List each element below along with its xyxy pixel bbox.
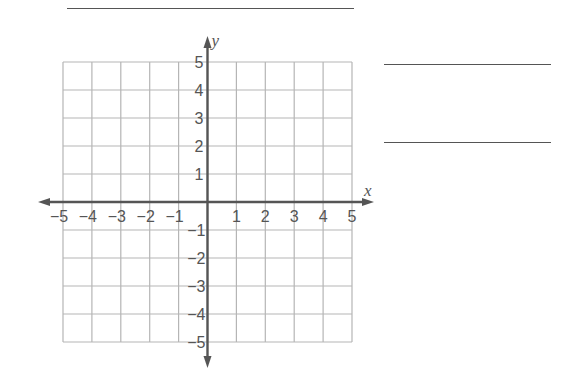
y-tick-label: 4 bbox=[195, 82, 204, 99]
y-tick-label: −2 bbox=[187, 250, 205, 267]
y-tick-label: −3 bbox=[187, 278, 205, 295]
y-axis-up-arrow-icon bbox=[204, 36, 212, 48]
y-tick-label: −5 bbox=[187, 334, 205, 351]
y-tick-label: −1 bbox=[187, 222, 205, 239]
x-axis-left-arrow-icon bbox=[38, 198, 50, 206]
x-tick-label: 2 bbox=[261, 208, 270, 225]
y-tick-label: 1 bbox=[195, 166, 204, 183]
y-tick-label: −4 bbox=[187, 306, 205, 323]
y-tick-label: 2 bbox=[195, 138, 204, 155]
x-tick-label: −2 bbox=[137, 208, 155, 225]
x-axis-label: x bbox=[363, 181, 372, 200]
y-tick-label: 3 bbox=[195, 110, 204, 127]
y-axis-label: y bbox=[210, 31, 220, 50]
y-axis-down-arrow-icon bbox=[204, 356, 212, 368]
x-tick-label: 3 bbox=[290, 208, 299, 225]
x-tick-label: 1 bbox=[232, 208, 241, 225]
y-tick-label: 5 bbox=[195, 54, 204, 71]
x-tick-label: −4 bbox=[79, 208, 97, 225]
x-tick-label: 5 bbox=[348, 208, 357, 225]
x-tick-label: −5 bbox=[50, 208, 68, 225]
x-tick-label: −3 bbox=[108, 208, 126, 225]
x-tick-label: 4 bbox=[319, 208, 328, 225]
coordinate-plane: −5−4−3−2−11234554321−1−2−3−4−5xy bbox=[0, 0, 572, 390]
x-tick-label: −1 bbox=[165, 208, 183, 225]
